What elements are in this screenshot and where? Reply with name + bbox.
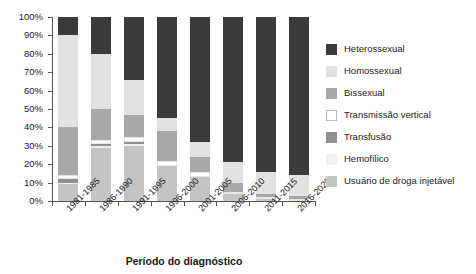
legend-label: Hemofílico	[344, 154, 389, 164]
legend-swatch	[326, 66, 337, 77]
bar-segment	[190, 17, 210, 142]
bar-segment	[91, 17, 111, 54]
legend-label: Heterossexual	[344, 44, 405, 54]
bar-segment	[124, 115, 144, 137]
legend-swatch	[326, 88, 337, 99]
legend-swatch	[326, 154, 337, 165]
stacked-bar-chart: 100%90%80%70%60%50%40%30%20%10%0% 1981-1…	[0, 0, 476, 274]
x-axis-tick	[216, 202, 217, 206]
bar-2001-2005	[190, 17, 210, 201]
bar-segment	[124, 17, 144, 80]
legend-item: Transmissão vertical	[326, 104, 476, 126]
legend-swatch	[326, 176, 337, 187]
bar-segment	[91, 54, 111, 109]
legend-item: Usuário de droga injetável	[326, 170, 476, 192]
legend-item: Transfusão	[326, 126, 476, 148]
y-axis-tick-label: 60%	[0, 86, 43, 96]
chart-legend: HeterossexualHomossexualBissexualTransmi…	[326, 38, 476, 192]
legend-label: Bissexual	[344, 88, 385, 98]
x-axis-tick	[52, 202, 53, 206]
bar-segment	[91, 148, 111, 201]
x-axis-tick	[184, 202, 185, 206]
x-axis-tick	[85, 202, 86, 206]
x-axis-title: Período do diagnóstico	[52, 255, 316, 267]
x-axis-tick	[282, 202, 283, 206]
bar-segment	[223, 17, 243, 162]
legend-item: Heterossexual	[326, 38, 476, 60]
y-axis-tick-label: 0%	[0, 196, 43, 206]
bar-1981-1985	[58, 17, 78, 201]
legend-label: Transfusão	[344, 132, 391, 142]
bar-segment	[190, 142, 210, 157]
bar-segment	[157, 17, 177, 118]
bar-segment	[157, 131, 177, 160]
bar-segment	[190, 157, 210, 172]
x-axis-tick	[118, 202, 119, 206]
bar-segment	[124, 146, 144, 201]
y-axis-tick-label: 40%	[0, 123, 43, 133]
legend-item: Homossexual	[326, 60, 476, 82]
y-axis-tick-label: 80%	[0, 49, 43, 59]
legend-swatch	[326, 44, 337, 55]
x-axis-tick	[249, 202, 250, 206]
bar-segment	[58, 127, 78, 175]
bar-segment	[91, 109, 111, 140]
bar-segment	[289, 17, 309, 175]
legend-label: Usuário de droga injetável	[344, 176, 454, 186]
y-axis-tick-label: 70%	[0, 67, 43, 77]
legend-label: Transmissão vertical	[344, 110, 431, 120]
bar-segment	[157, 118, 177, 131]
legend-swatch	[326, 110, 337, 121]
plot-area	[52, 17, 315, 201]
bar-segment	[58, 35, 78, 127]
y-axis-tick-label: 50%	[0, 104, 43, 114]
legend-item: Hemofílico	[326, 148, 476, 170]
y-axis-tick-label: 10%	[0, 178, 43, 188]
y-axis-tick-label: 90%	[0, 31, 43, 41]
bar-2011-2015	[256, 17, 276, 201]
y-axis-tick-label: 20%	[0, 159, 43, 169]
bar-segment	[124, 80, 144, 115]
bar-segment	[58, 17, 78, 35]
bar-1996-2000	[157, 17, 177, 201]
legend-swatch	[326, 132, 337, 143]
bar-2016-2020	[289, 17, 309, 201]
bar-2006-2010	[223, 17, 243, 201]
x-axis-tick	[151, 202, 152, 206]
bar-1991-1995	[124, 17, 144, 201]
legend-item: Bissexual	[326, 82, 476, 104]
y-axis-tick-label: 100%	[0, 12, 43, 22]
y-axis-tick-label: 30%	[0, 141, 43, 151]
legend-label: Homossexual	[344, 66, 402, 76]
bar-1986-1990	[91, 17, 111, 201]
bar-segment	[256, 17, 276, 172]
x-axis-tick	[315, 202, 316, 206]
